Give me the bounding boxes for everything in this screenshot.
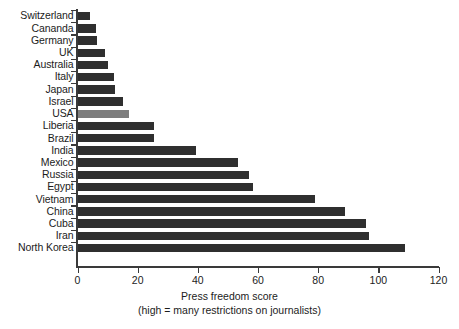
bar-row bbox=[78, 230, 439, 242]
x-tick-label-100: 100 bbox=[358, 274, 398, 286]
x-tick-label-80: 80 bbox=[298, 274, 338, 286]
bar-row bbox=[78, 144, 439, 156]
bar-north-korea bbox=[78, 244, 406, 252]
x-axis-title: Press freedom score (high = many restric… bbox=[0, 290, 459, 317]
bar-row bbox=[78, 193, 439, 205]
bar-italy bbox=[78, 73, 114, 81]
y-tick-mark bbox=[71, 120, 77, 121]
bar-row bbox=[78, 181, 439, 193]
y-tick-mark bbox=[71, 96, 77, 97]
bar-mexico bbox=[78, 158, 239, 166]
bar-cananda bbox=[78, 24, 96, 32]
category-label-mexico: Mexico bbox=[2, 157, 74, 168]
y-tick-mark bbox=[71, 205, 77, 206]
bar-row bbox=[78, 95, 439, 107]
category-axis-labels: SwitzerlandCanandaGermanyUKAustraliaItal… bbox=[0, 10, 74, 267]
bar-brazil bbox=[78, 134, 155, 142]
y-tick-mark bbox=[71, 34, 77, 35]
bar-row bbox=[78, 120, 439, 132]
y-tick-mark bbox=[71, 47, 77, 48]
category-label-uk: UK bbox=[2, 47, 74, 58]
y-tick-mark bbox=[71, 108, 77, 109]
category-label-iran: Iran bbox=[2, 230, 74, 241]
category-label-vietnam: Vietnam bbox=[2, 194, 74, 205]
bar-liberia bbox=[78, 122, 155, 130]
x-tick-mark bbox=[318, 267, 319, 273]
bar-egypt bbox=[78, 183, 254, 191]
bar-row bbox=[78, 217, 439, 229]
x-axis-title-sub: (high = many restrictions on journalists… bbox=[0, 304, 459, 318]
category-label-japan: Japan bbox=[2, 84, 74, 95]
bar-russia bbox=[78, 171, 249, 179]
x-tick-label-60: 60 bbox=[238, 274, 278, 286]
bar-row bbox=[78, 71, 439, 83]
category-label-germany: Germany bbox=[2, 35, 74, 46]
x-tick-mark bbox=[378, 267, 379, 273]
y-tick-mark bbox=[71, 181, 77, 182]
y-tick-mark bbox=[71, 59, 77, 60]
category-label-egypt: Egypt bbox=[2, 181, 74, 192]
bar-china bbox=[78, 207, 346, 215]
y-tick-mark bbox=[71, 71, 77, 72]
category-label-cananda: Cananda bbox=[2, 23, 74, 34]
bar-row bbox=[78, 242, 439, 254]
category-label-italy: Italy bbox=[2, 71, 74, 82]
bar-japan bbox=[78, 85, 116, 93]
y-tick-mark bbox=[71, 169, 77, 170]
category-label-switzerland: Switzerland bbox=[2, 10, 74, 21]
y-tick-mark bbox=[71, 218, 77, 219]
bar-vietnam bbox=[78, 195, 316, 203]
x-tick-mark bbox=[439, 267, 440, 273]
category-label-australia: Australia bbox=[2, 59, 74, 70]
plot-area bbox=[78, 10, 439, 267]
category-label-india: India bbox=[2, 145, 74, 156]
bar-row bbox=[78, 83, 439, 95]
y-tick-mark bbox=[71, 242, 77, 243]
y-tick-mark bbox=[71, 83, 77, 84]
bar-row bbox=[78, 59, 439, 71]
bar-row bbox=[78, 169, 439, 181]
y-tick-mark bbox=[71, 132, 77, 133]
bar-germany bbox=[78, 36, 98, 44]
bar-india bbox=[78, 146, 197, 154]
y-tick-mark bbox=[71, 193, 77, 194]
bar-switzerland bbox=[78, 12, 90, 20]
y-tick-mark bbox=[71, 230, 77, 231]
x-tick-label-40: 40 bbox=[178, 274, 218, 286]
bar-australia bbox=[78, 61, 108, 69]
y-tick-mark bbox=[71, 157, 77, 158]
x-tick-mark bbox=[78, 267, 79, 273]
y-tick-mark bbox=[71, 144, 77, 145]
bar-uk bbox=[78, 49, 105, 57]
bar-row bbox=[78, 47, 439, 59]
bar-row bbox=[78, 34, 439, 46]
bar-cuba bbox=[78, 219, 367, 227]
category-label-north-korea: North Korea bbox=[2, 242, 74, 253]
x-tick-label-20: 20 bbox=[118, 274, 158, 286]
category-label-usa: USA bbox=[2, 108, 74, 119]
category-label-russia: Russia bbox=[2, 169, 74, 180]
bar-row bbox=[78, 108, 439, 120]
x-tick-mark bbox=[258, 267, 259, 273]
category-label-cuba: Cuba bbox=[2, 218, 74, 229]
bar-usa bbox=[78, 110, 129, 118]
category-label-israel: Israel bbox=[2, 96, 74, 107]
x-axis-title-main: Press freedom score bbox=[181, 290, 278, 302]
bar-row bbox=[78, 22, 439, 34]
y-tick-mark bbox=[71, 10, 77, 11]
bar-row bbox=[78, 132, 439, 144]
y-tick-mark bbox=[71, 22, 77, 23]
category-label-brazil: Brazil bbox=[2, 133, 74, 144]
x-tick-label-0: 0 bbox=[58, 274, 98, 286]
bar-row bbox=[78, 156, 439, 168]
bar-iran bbox=[78, 232, 370, 240]
bar-row bbox=[78, 205, 439, 217]
x-tick-mark bbox=[138, 267, 139, 273]
press-freedom-bar-chart: SwitzerlandCanandaGermanyUKAustraliaItal… bbox=[0, 0, 459, 329]
category-label-liberia: Liberia bbox=[2, 120, 74, 131]
bar-row bbox=[78, 10, 439, 22]
x-tick-mark bbox=[198, 267, 199, 273]
bar-israel bbox=[78, 97, 123, 105]
x-tick-label-120: 120 bbox=[419, 274, 459, 286]
category-label-china: China bbox=[2, 206, 74, 217]
